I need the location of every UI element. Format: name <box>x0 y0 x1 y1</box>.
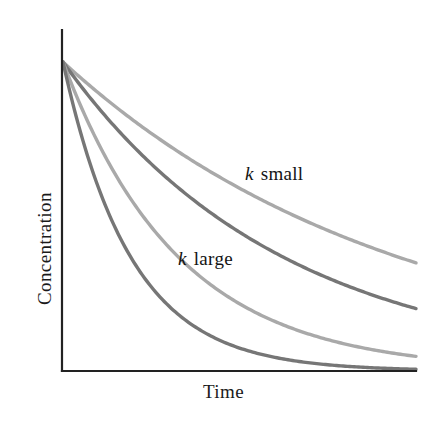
x-axis-title: Time <box>203 381 244 403</box>
decay-chart-figure: Concentration Time k small k large <box>0 0 436 423</box>
k-symbol: k <box>245 163 256 184</box>
curves-group <box>63 62 416 369</box>
k-symbol: k <box>178 248 189 269</box>
plot-area <box>0 0 436 423</box>
curve-label-k-large: k large <box>178 248 233 270</box>
curve-label-k-small: k small <box>245 163 303 185</box>
y-axis-title: Concentration <box>34 192 56 305</box>
k-large-text: large <box>189 248 233 269</box>
axes-group <box>62 30 416 371</box>
decay-curve <box>63 62 416 309</box>
k-small-text: small <box>256 163 304 184</box>
